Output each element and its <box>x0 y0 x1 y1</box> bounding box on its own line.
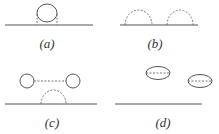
panel-c: (c) <box>5 74 97 130</box>
panel-label-a: (a) <box>39 36 54 51</box>
dashed-arc <box>167 10 193 25</box>
panel-d: (d) <box>115 67 212 131</box>
dashed-arc <box>41 90 66 104</box>
loop <box>20 74 34 88</box>
panel-label-b: (b) <box>147 36 162 51</box>
dashed-arc <box>125 10 152 25</box>
panel-label-c: (c) <box>45 115 59 130</box>
panel-label-d: (d) <box>155 115 170 130</box>
panel-a: (a) <box>5 4 93 51</box>
loop <box>37 4 57 22</box>
loop <box>66 74 80 88</box>
panel-b: (b) <box>120 10 198 51</box>
diagram-canvas: (a) (b) (c) (d) <box>0 0 219 134</box>
